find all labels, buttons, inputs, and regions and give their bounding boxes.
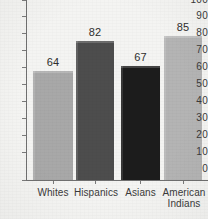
bar-asians xyxy=(121,66,160,180)
value-label-asians: 67 xyxy=(121,52,160,63)
y-axis-tick-label-70: 70 xyxy=(186,45,208,55)
value-label-american-indians: 85 xyxy=(164,22,202,33)
x-axis-label-hispanics: Hispanics xyxy=(70,187,122,198)
bar-chart: 100 90 80 70 60 50 40 30 20 10 0 64 82 6… xyxy=(0,0,208,219)
bar-edge xyxy=(33,71,35,180)
x-axis-label-asians: Asians xyxy=(118,187,163,198)
bar-highlight xyxy=(76,41,114,43)
y-axis-line xyxy=(26,0,27,181)
x-axis-tick-hispanics xyxy=(95,181,96,184)
x-axis-tick-whites xyxy=(53,181,54,184)
x-axis-label-american-indians: American Indians xyxy=(160,187,208,209)
x-axis-tick-asians xyxy=(140,181,141,184)
y-axis-tick-label-50: 50 xyxy=(186,79,208,89)
y-axis-tick-label-60: 60 xyxy=(186,62,208,72)
bar-highlight xyxy=(33,71,73,73)
bar-hispanics xyxy=(76,41,114,180)
bar-edge xyxy=(121,66,123,180)
y-axis-tick-label-10: 10 xyxy=(186,147,208,157)
y-axis-tick-label-40: 40 xyxy=(186,96,208,106)
y-axis-tick-label-100: 100 xyxy=(186,0,208,5)
y-axis-tick-label-0: 0 xyxy=(186,164,208,174)
bar-highlight xyxy=(121,66,160,68)
value-label-whites: 64 xyxy=(33,57,73,68)
x-axis-tick-american-indians xyxy=(183,181,184,184)
y-axis-tick-label-30: 30 xyxy=(186,113,208,123)
bar-american-indians xyxy=(164,36,202,180)
value-label-hispanics: 82 xyxy=(76,27,114,38)
bar-whites xyxy=(33,71,73,180)
y-axis-tick-label-20: 20 xyxy=(186,130,208,140)
y-axis-tick-label-90: 90 xyxy=(186,11,208,21)
bar-edge xyxy=(76,41,78,180)
bar-edge xyxy=(164,36,166,180)
